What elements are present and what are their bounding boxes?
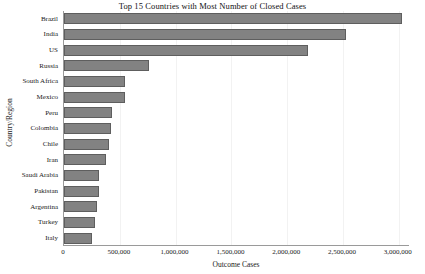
bar-row[interactable] [64,136,410,152]
bar-row[interactable] [64,183,410,199]
bar-row[interactable] [64,42,410,58]
x-axis-tick-label: 1,500,000 [216,248,244,256]
bar[interactable] [64,154,106,165]
bar[interactable] [64,60,149,71]
bar[interactable] [64,29,346,40]
bar[interactable] [64,170,99,181]
y-axis-tick-label: India [44,27,58,43]
x-axis-tick-label: 3,000,000 [384,248,412,256]
y-axis-tick-label: Italy [45,230,58,246]
bar[interactable] [64,76,125,87]
x-axis-tick-label: 0 [61,248,65,256]
x-axis-tick-label: 2,000,000 [272,248,300,256]
bar-row[interactable] [64,74,410,90]
y-axis-tick-label: Turkey [38,215,58,231]
y-axis-tick-label: Pakistan [34,183,58,199]
x-axis-tick-label: 500,000 [107,248,130,256]
bar[interactable] [64,92,125,103]
bar-row[interactable] [64,152,410,168]
y-axis-tick-label: Chile [43,136,58,152]
x-axis-tick-label: 2,500,000 [328,248,356,256]
bar[interactable] [64,201,97,212]
bar[interactable] [64,123,111,134]
bar-row[interactable] [64,199,410,215]
bar[interactable] [64,13,402,24]
bar-row[interactable] [64,58,410,74]
y-axis-tick-label: Russia [39,58,58,74]
bar-row[interactable] [64,121,410,137]
y-axis-tick-label: Saudi Arabia [22,168,58,184]
y-axis-tick-label: Mexico [37,89,58,105]
x-axis-tick-labels: 0500,0001,000,0001,500,0002,000,0002,500… [0,248,425,260]
y-axis-tick-label: Peru [45,105,58,121]
bar-row[interactable] [64,168,410,184]
y-axis-tick-label: South Africa [22,74,58,90]
y-axis-tick-label: US [49,42,58,58]
chart-container: Top 15 Countries with Most Number of Clo… [0,0,425,274]
y-axis-tick-label: Colombia [30,121,58,137]
y-axis-tick-label: Argentina [30,199,58,215]
y-axis-tick-label: Iran [47,152,58,168]
plot-area [63,11,409,246]
bar[interactable] [64,186,99,197]
x-axis-title: Outcome Cases [63,260,409,269]
chart-title: Top 15 Countries with Most Number of Clo… [0,1,425,11]
bar-row[interactable] [64,215,410,231]
bar-row[interactable] [64,11,410,27]
bar[interactable] [64,139,109,150]
bar-row[interactable] [64,27,410,43]
bar-row[interactable] [64,89,410,105]
bar[interactable] [64,217,95,228]
bar[interactable] [64,107,112,118]
bar[interactable] [64,45,308,56]
bar[interactable] [64,233,92,244]
x-axis-tick-label: 1,000,000 [161,248,189,256]
bar-row[interactable] [64,105,410,121]
bar-series [64,11,409,245]
y-axis-title: Country/Region [5,88,14,158]
bar-row[interactable] [64,230,410,246]
y-axis-tick-label: Brazil [41,11,58,27]
